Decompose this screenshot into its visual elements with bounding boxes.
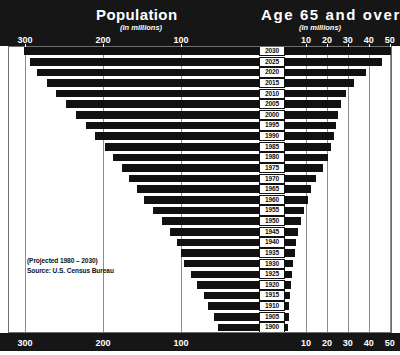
bar-row: 1940 xyxy=(8,237,392,247)
population-bar xyxy=(144,196,259,204)
tick-bottom-right-20: 20 xyxy=(322,338,332,348)
annotation-source: Source: U.S. Census Bureau xyxy=(27,266,114,276)
bar-row: 2030 xyxy=(8,46,392,56)
tick-top-right-10-mark xyxy=(306,44,307,47)
tick-bottom-right-40: 40 xyxy=(364,338,374,348)
population-bar xyxy=(184,260,259,268)
population-bar xyxy=(95,132,259,140)
tick-bottom-left-300: 300 xyxy=(17,338,32,348)
year-label-2000: 2000 xyxy=(259,110,285,120)
population-bar xyxy=(105,143,259,151)
age65-bar xyxy=(285,324,288,332)
bar-row: 2010 xyxy=(8,89,392,99)
bar-row: 1920 xyxy=(8,280,392,290)
bar-row: 1960 xyxy=(8,195,392,205)
bar-row: 1900 xyxy=(8,322,392,332)
population-bar xyxy=(204,292,259,300)
population-bar xyxy=(191,271,259,279)
population-bar xyxy=(214,313,259,321)
tick-top-right-50-mark xyxy=(390,44,391,47)
tick-bottom-right-10: 10 xyxy=(301,338,311,348)
year-label-2020: 2020 xyxy=(259,67,285,77)
population-bar xyxy=(66,100,259,108)
age65-bar xyxy=(285,281,291,289)
population-bar xyxy=(177,239,259,247)
year-label-1960: 1960 xyxy=(259,195,285,205)
population-bar xyxy=(30,58,259,66)
bar-row: 2000 xyxy=(8,110,392,120)
year-label-1980: 1980 xyxy=(259,152,285,162)
bar-row: 1950 xyxy=(8,216,392,226)
bar-row: 2015 xyxy=(8,78,392,88)
population-bar xyxy=(56,90,259,98)
tick-top-left-200-mark xyxy=(103,44,104,47)
year-label-1985: 1985 xyxy=(259,142,285,152)
age65-bar xyxy=(285,111,338,119)
year-label-1965: 1965 xyxy=(259,184,285,194)
population-bar xyxy=(208,302,259,310)
bar-row: 2005 xyxy=(8,99,392,109)
population-bar xyxy=(218,324,259,332)
bar-row: 2025 xyxy=(8,57,392,67)
population-bar xyxy=(137,185,259,193)
year-label-2010: 2010 xyxy=(259,89,285,99)
year-label-2025: 2025 xyxy=(259,57,285,67)
bar-row: 2020 xyxy=(8,67,392,77)
population-bar xyxy=(113,154,259,162)
population-subtitle: (in millions) xyxy=(120,23,162,32)
year-label-1955: 1955 xyxy=(259,205,285,215)
age65-bar xyxy=(285,207,304,215)
population-age65-chart: Population (in millions) Age 65 and over… xyxy=(0,0,400,355)
population-bar xyxy=(86,122,259,130)
year-label-2005: 2005 xyxy=(259,99,285,109)
population-bar xyxy=(162,217,260,225)
tick-bottom-left-200: 200 xyxy=(95,338,110,348)
age65-bar xyxy=(285,292,290,300)
bar-row: 1980 xyxy=(8,152,392,162)
age65-bar xyxy=(285,249,295,257)
year-label-1970: 1970 xyxy=(259,174,285,184)
year-label-1925: 1925 xyxy=(259,269,285,279)
bar-row: 1965 xyxy=(8,184,392,194)
year-label-1975: 1975 xyxy=(259,163,285,173)
year-label-1900: 1900 xyxy=(259,322,285,332)
age65-bar xyxy=(285,185,311,193)
tick-bottom-right-50: 50 xyxy=(385,338,395,348)
bar-row: 1915 xyxy=(8,290,392,300)
year-label-1940: 1940 xyxy=(259,237,285,247)
year-label-1910: 1910 xyxy=(259,301,285,311)
year-label-1995: 1995 xyxy=(259,120,285,130)
year-label-2030: 2030 xyxy=(259,46,285,56)
age65-bar xyxy=(285,164,323,172)
year-label-2015: 2015 xyxy=(259,78,285,88)
age65-bar xyxy=(285,58,382,66)
population-bar xyxy=(122,164,259,172)
year-label-1915: 1915 xyxy=(259,290,285,300)
bar-row: 1955 xyxy=(8,205,392,215)
age65-bar xyxy=(285,239,296,247)
age65-bar xyxy=(285,196,308,204)
age65-bar xyxy=(285,90,346,98)
age65-bar xyxy=(285,302,289,310)
population-bar xyxy=(181,249,259,257)
population-bar xyxy=(170,228,259,236)
population-bar xyxy=(197,281,259,289)
population-bar xyxy=(47,79,259,87)
age65-bar xyxy=(285,69,366,77)
age65-bar xyxy=(285,313,289,321)
age65-bar xyxy=(285,228,298,236)
year-label-1945: 1945 xyxy=(259,227,285,237)
year-label-1930: 1930 xyxy=(259,259,285,269)
footer-band xyxy=(0,333,400,351)
tick-top-left-300-mark xyxy=(25,44,26,47)
tick-top-right-40-mark xyxy=(369,44,370,47)
bar-row: 1905 xyxy=(8,312,392,322)
year-label-1935: 1935 xyxy=(259,248,285,258)
age65-bar xyxy=(285,122,336,130)
bar-row: 1985 xyxy=(8,142,392,152)
population-bar xyxy=(76,111,259,119)
tick-top-right-20-mark xyxy=(327,44,328,47)
bar-row: 1990 xyxy=(8,131,392,141)
age65-title: Age 65 and over xyxy=(261,6,400,23)
bar-row: 1945 xyxy=(8,227,392,237)
